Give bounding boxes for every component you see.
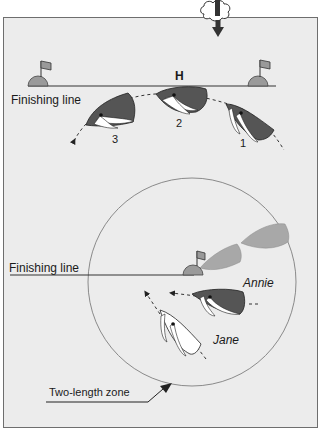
mark-label-h: H: [175, 69, 184, 83]
boat-number-3: 3: [112, 133, 118, 145]
boat-name-annie: Annie: [243, 276, 274, 290]
two-length-zone-label: Two-length zone: [49, 386, 130, 398]
boat-name-jane: Jane: [213, 333, 239, 347]
boat-number-1: 1: [240, 137, 246, 149]
finishing-line-label-top: Finishing line: [11, 93, 81, 107]
diagram-canvas: H Finishing line 3 2 1 Finishing line An…: [0, 0, 321, 431]
boat-number-2: 2: [176, 117, 182, 129]
diagram-panel: [4, 18, 318, 428]
diagram-svg: [0, 0, 321, 431]
finishing-line-label-bottom: Finishing line: [9, 261, 79, 275]
